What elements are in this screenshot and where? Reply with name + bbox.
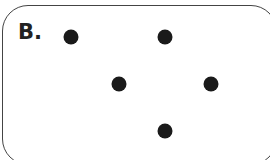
- dot-icon: [112, 77, 127, 92]
- diagram-frame: [2, 5, 270, 160]
- dot-icon: [158, 124, 173, 139]
- dot-icon: [204, 77, 219, 92]
- dot-icon: [158, 30, 173, 45]
- panel-label: B.: [18, 20, 42, 44]
- dot-icon: [64, 30, 79, 45]
